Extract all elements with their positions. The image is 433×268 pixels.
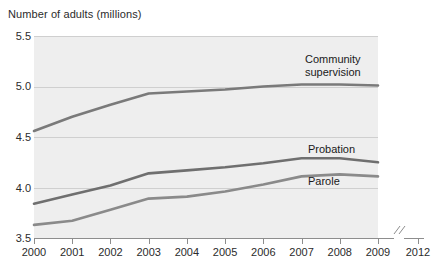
series-label-community-supervision: Community supervision (305, 53, 361, 79)
chart-container: Number of adults (millions) 5.5 5.0 4.5 … (0, 0, 433, 268)
series-label-probation: Probation (308, 143, 355, 156)
series-line-community-supervision (34, 84, 378, 130)
series-label-parole: Parole (308, 175, 340, 188)
chart-plot-svg (0, 0, 433, 268)
axis-break-icon (394, 226, 405, 234)
